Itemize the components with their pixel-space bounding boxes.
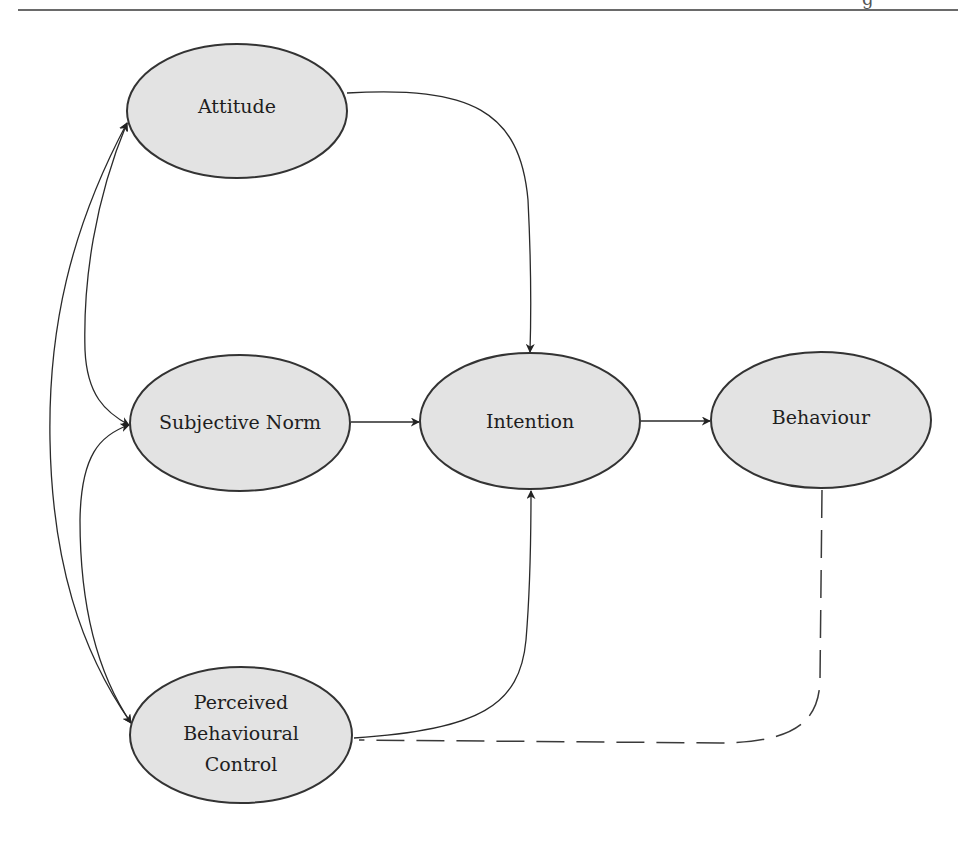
node-intention: Intention xyxy=(420,353,640,489)
edge-pbc-to-intention xyxy=(354,491,531,738)
node-subjective-norm: Subjective Norm xyxy=(130,355,350,491)
edge-subjective-norm-pbc xyxy=(80,425,131,723)
node-pbc-label-line3: Control xyxy=(205,753,277,775)
node-behaviour: Behaviour xyxy=(711,352,931,488)
tpb-diagram: Attitude Subjective Norm Intention Behav… xyxy=(0,0,969,841)
page: g Attitu xyxy=(0,0,969,841)
node-pbc-label-line2: Behavioural xyxy=(183,722,299,744)
node-attitude-label: Attitude xyxy=(197,95,276,117)
edge-attitude-to-intention xyxy=(347,92,531,352)
node-behaviour-label: Behaviour xyxy=(772,406,871,428)
node-intention-label: Intention xyxy=(486,410,574,432)
node-attitude: Attitude xyxy=(127,44,347,178)
edge-attitude-subjective-norm xyxy=(85,123,129,425)
edge-attitude-pbc xyxy=(50,123,131,723)
node-perceived-behavioural-control: Perceived Behavioural Control xyxy=(130,667,352,803)
edge-behaviour-to-pbc-dashed xyxy=(359,490,822,743)
node-pbc-label-line1: Perceived xyxy=(194,691,288,713)
node-subjective-norm-label: Subjective Norm xyxy=(159,411,321,433)
